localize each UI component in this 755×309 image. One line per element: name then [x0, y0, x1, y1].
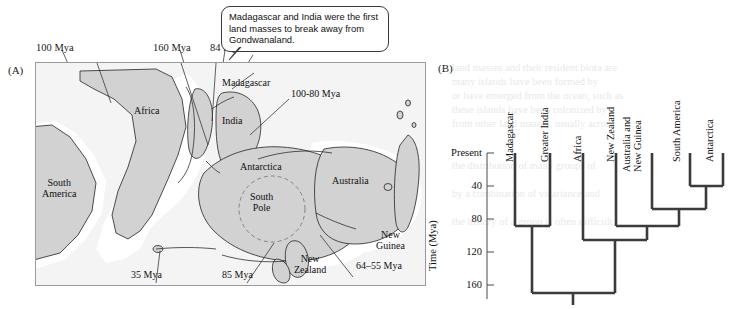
map-label-new-zealand: NewZealand [294, 253, 326, 275]
callout-tail-icon [228, 47, 242, 61]
map-label-160-mya: 160 Mya [153, 42, 191, 53]
map-label-100-mya: 100 Mya [36, 42, 74, 53]
tree-branches [430, 55, 755, 309]
map-label-africa: Africa [134, 105, 160, 116]
map-label-australia: Australia [332, 175, 369, 186]
map-label-35-mya: 35 Mya [131, 269, 162, 280]
gondwanaland-map: Africa India Madagascar SouthAmerica Ant… [35, 62, 426, 286]
map-label-100-80-mya: 100-80 Mya [291, 88, 340, 99]
map-label-south-america: SouthAmerica [42, 177, 76, 199]
vicariance-tree: Madagascar Greater India Africa New Zeal… [430, 55, 755, 309]
map-label-85-mya: 85 Mya [222, 269, 253, 280]
map-label-64-55-mya: 64–55 Mya [356, 260, 402, 271]
callout-box: Madagascar and India were the first land… [221, 6, 389, 52]
map-label-antarctica: Antarctica [240, 161, 282, 172]
map-label-new-guinea: NewGuinea [376, 229, 405, 251]
map-label-madagascar: Madagascar [222, 77, 270, 88]
map-label-south-pole: SouthPole [250, 191, 273, 213]
map-text-layer: Africa India Madagascar SouthAmerica Ant… [36, 63, 425, 285]
map-label-india: India [222, 115, 243, 126]
